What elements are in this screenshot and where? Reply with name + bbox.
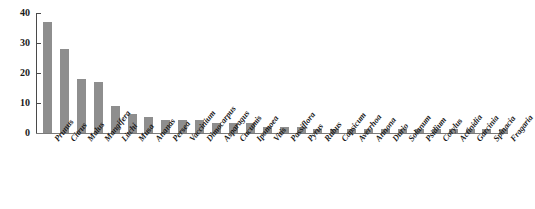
x-axis-tick-label: Malus <box>85 137 93 143</box>
y-axis-tick <box>37 13 41 14</box>
x-axis-tick-label: Pyrus <box>305 137 313 143</box>
x-axis-tick-label: Averrhoa <box>356 137 364 143</box>
x-axis-tick-label: Cucumis <box>237 137 245 143</box>
y-axis-tick <box>37 73 41 74</box>
x-axis-tick-label: Citrus <box>68 137 76 143</box>
x-axis-tick-label: Solanum <box>406 137 414 143</box>
x-axis-tick-label: Vitis <box>271 137 279 143</box>
x-axis-tick-label: Persea <box>170 137 178 143</box>
x-axis-tick-label: Asparagus <box>221 137 229 143</box>
y-axis-tick-label: 40 <box>0 8 30 18</box>
x-axis-tick-label: Fragaria <box>508 137 516 143</box>
x-axis-tick-label: Durio <box>390 137 398 143</box>
x-axis-tick-label: Dimocarpus <box>204 137 212 143</box>
bar <box>43 22 52 133</box>
x-axis-tick-label: Annona <box>373 137 381 143</box>
y-axis-tick-label: 20 <box>0 68 30 78</box>
y-axis-tick-label: 10 <box>0 98 30 108</box>
x-axis-tick-label: Capsicum <box>339 137 347 143</box>
y-axis-tick <box>37 43 41 44</box>
y-axis-tick-label: 30 <box>0 38 30 48</box>
x-axis-tick-label: Mangifera <box>102 137 110 143</box>
x-axis-tick-label: Prunus <box>52 137 60 143</box>
y-axis-tick-label: 0 <box>0 128 30 138</box>
x-axis-tick-label: Ipomoea <box>254 137 262 143</box>
x-axis-tick-label: Musa <box>136 137 144 143</box>
y-axis-tick <box>37 103 41 104</box>
x-axis-tick-label: Spinacia <box>491 137 499 143</box>
x-axis-tick-label: Ananas <box>153 137 161 143</box>
x-axis-tick-label: Litchi <box>119 137 127 143</box>
x-axis-tick-label: Psidium <box>423 137 431 143</box>
x-axis-tick-label: Actinidia <box>457 137 465 143</box>
x-axis-tick-label: Vaccinium <box>187 137 195 143</box>
x-axis-tick-label: Corylus <box>440 137 448 143</box>
x-axis-tick-label: Garcinia <box>474 137 482 143</box>
x-axis-tick-label: Passiflora <box>288 137 296 143</box>
x-axis-tick-label: Rubus <box>322 137 330 143</box>
